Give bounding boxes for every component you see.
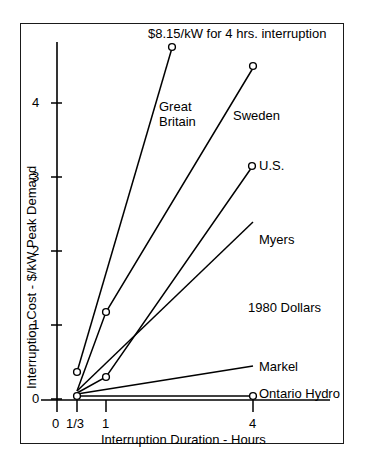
series-label-sweden: Sweden xyxy=(233,108,280,123)
data-point-great-britain-start xyxy=(74,369,81,376)
x-axis-title: Interruption Duration - Hours xyxy=(101,432,266,447)
series-label-us: U.S. xyxy=(259,158,284,173)
series-label-ontario-hydro: Ontario Hydro xyxy=(259,386,340,401)
data-point-sweden-1hr xyxy=(103,309,110,316)
series-label-markel: Markel xyxy=(259,359,298,374)
series-label-myers: Myers xyxy=(259,232,294,247)
y-tick-label-4: 4 xyxy=(32,95,39,110)
series-line-myers xyxy=(77,222,253,391)
note-dollar-year: 1980 Dollars xyxy=(248,300,321,315)
y-tick-label-0: 0 xyxy=(32,391,39,406)
x-tick-label-one-third: 1/3 xyxy=(66,416,84,431)
x-tick-label-4: 4 xyxy=(249,416,256,431)
data-point-great-britain-end xyxy=(169,44,176,51)
series-line-great-britain xyxy=(77,48,172,372)
plot-canvas xyxy=(0,0,366,473)
y-axis-title: Interruption Cost - $/kW Peak Demand xyxy=(24,166,39,389)
x-tick-label-0: 0 xyxy=(52,416,59,431)
annotation-peak-cost: $8.15/kW for 4 hrs. interruption xyxy=(148,26,326,41)
x-tick-label-1: 1 xyxy=(102,416,109,431)
data-point-us-4hr xyxy=(249,163,256,170)
data-point-ontario-hydro-end xyxy=(250,393,257,400)
chart-figure: 4 3 2 1 0 0 1/3 1 4 Interruption Duratio… xyxy=(0,0,366,473)
series-label-great-britain-line2: Britain xyxy=(159,114,196,129)
data-point-sweden-4hr xyxy=(250,63,257,70)
data-point-us-1hr xyxy=(103,374,110,381)
data-point-ontario-hydro-start xyxy=(74,393,81,400)
series-label-great-britain-line1: Great xyxy=(159,99,192,114)
